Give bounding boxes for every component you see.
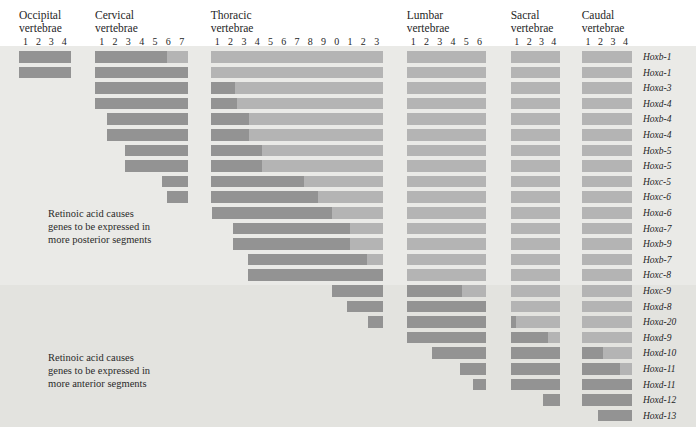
posterior-note: Retinoic acid causesgenes to be expresse… (48, 207, 151, 246)
expression-bar-segment (582, 254, 632, 266)
expression-bar-segment (462, 285, 486, 297)
expression-bar-segment (511, 285, 560, 297)
region-title-line: Thoracic (211, 9, 254, 22)
expression-bar-segment (407, 113, 486, 125)
expression-bar-segment (582, 332, 632, 344)
expression-bar-segment (407, 160, 486, 172)
gene-label: Hoxa-20 (643, 317, 676, 327)
expression-bar-segment (511, 176, 560, 188)
expression-bar-segment (582, 67, 632, 79)
expression-bar-segment (233, 238, 350, 250)
gene-label: Hoxb-4 (643, 114, 672, 124)
expression-bar-segment (582, 129, 632, 141)
expression-bar-segment (237, 98, 383, 110)
expression-bar-segment (511, 379, 560, 391)
gene-label: Hoxa-1 (643, 68, 672, 78)
expression-bar-segment (249, 129, 384, 141)
expression-bar-segment (511, 67, 560, 79)
region-title-line: vertebrae (511, 22, 554, 35)
vertebra-number: 5 (460, 36, 473, 47)
expression-bar-segment (211, 67, 384, 79)
expression-bar-segment (582, 285, 632, 297)
expression-bar-segment (511, 129, 560, 141)
vertebra-number: 2 (594, 36, 607, 47)
expression-bar-segment (211, 51, 384, 63)
region-title-line: vertebrae (211, 22, 254, 35)
expression-bar-segment (125, 160, 188, 172)
region-title-thoracic: Thoracicvertebrae (211, 9, 254, 34)
expression-bar-segment (407, 98, 486, 110)
gene-label: Hoxb-9 (643, 239, 672, 249)
region-title-occipital: Occipitalvertebrae (19, 9, 62, 34)
expression-bar-segment (407, 238, 486, 250)
expression-bar-segment (407, 51, 486, 63)
vertebra-number: 2 (32, 36, 45, 47)
expression-bar-segment (516, 316, 560, 328)
expression-bar-segment (598, 410, 631, 422)
expression-bar-segment (582, 347, 604, 359)
expression-bar-segment (511, 145, 560, 157)
region-title-line: vertebrae (19, 22, 62, 35)
expression-bar-segment (249, 113, 384, 125)
vertebra-number: 6 (473, 36, 486, 47)
vertebra-number: 1 (19, 36, 32, 47)
gene-label: Hoxb-7 (643, 255, 672, 265)
gene-label: Hoxc-9 (643, 286, 671, 296)
expression-bar-segment (582, 223, 632, 235)
expression-bar-segment (19, 67, 71, 79)
expression-bar-segment (511, 238, 560, 250)
expression-bar-segment (350, 238, 383, 250)
expression-bar-segment (511, 191, 560, 203)
expression-bar-segment (511, 51, 560, 63)
expression-bar-segment (347, 301, 384, 313)
expression-bar-segment (248, 254, 367, 266)
expression-bar-segment (511, 207, 560, 219)
expression-bar-segment (211, 113, 249, 125)
expression-bar-segment (511, 332, 549, 344)
region-title-line: Sacral (511, 9, 554, 22)
vertebra-number: 1 (211, 36, 224, 47)
expression-bar-segment (107, 129, 188, 141)
expression-bar-segment (511, 82, 560, 94)
gene-label: Hoxd-12 (643, 395, 676, 405)
annotation-line: genes to be expressed in (48, 220, 151, 233)
region-title-line: Cervical (95, 9, 138, 22)
vertebra-number: 1 (582, 36, 595, 47)
gene-label: Hoxd-13 (643, 411, 676, 421)
gene-label: Hoxc-6 (643, 192, 671, 202)
expression-bar-segment (407, 332, 486, 344)
expression-bar-segment (367, 254, 384, 266)
gene-label: Hoxc-8 (643, 270, 671, 280)
expression-bar-segment (432, 347, 486, 359)
annotation-line: more anterior segments (48, 377, 150, 390)
expression-bar-segment (211, 160, 262, 172)
expression-bar-segment (582, 176, 632, 188)
expression-bar-segment (19, 51, 71, 63)
vertebra-number: 1 (343, 36, 356, 47)
expression-bar-segment (407, 285, 462, 297)
expression-bar-segment (407, 176, 486, 188)
region-title-line: vertebrae (407, 22, 450, 35)
expression-bar-segment (582, 363, 620, 375)
region-title-line: Caudal (582, 9, 625, 22)
vertebra-number: 3 (370, 36, 383, 47)
expression-bar-segment (211, 145, 262, 157)
vertebra-number: 2 (357, 36, 370, 47)
vertebra-number: 4 (619, 36, 632, 47)
expression-bar-segment (332, 207, 384, 219)
expression-bar-segment (603, 347, 631, 359)
expression-bar-segment (473, 379, 486, 391)
vertebra-number: 4 (58, 36, 71, 47)
expression-bar-segment (511, 223, 560, 235)
vertebra-number: 7 (175, 36, 188, 47)
expression-bar-segment (407, 129, 486, 141)
expression-bar-segment (233, 223, 350, 235)
region-title-line: vertebrae (582, 22, 625, 35)
vertebra-number: 1 (511, 36, 523, 47)
vertebra-number: 1 (95, 36, 108, 47)
expression-bar-segment (95, 98, 188, 110)
vertebra-number: 4 (446, 36, 459, 47)
expression-bar-segment (248, 269, 384, 281)
expression-bar-segment (407, 145, 486, 157)
expression-bar-segment (167, 51, 188, 63)
